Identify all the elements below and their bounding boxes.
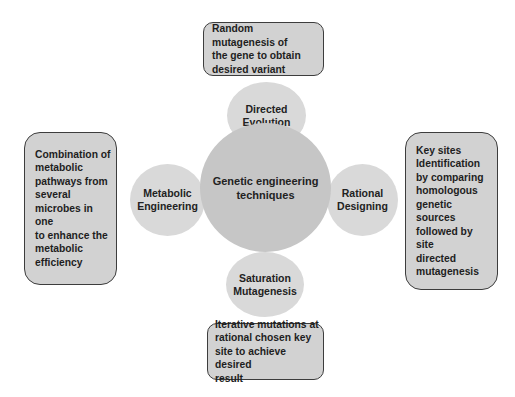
directed-evolution-description-box: Random mutagenesis of the gene to obtain… <box>203 22 324 76</box>
saturation-mutagenesis-description: Iterative mutations at rational chosen k… <box>215 318 319 386</box>
saturation-mutagenesis-label: Saturation Mutagenesis <box>233 272 297 298</box>
metabolic-engineering-description: Combination of metabolic pathways from s… <box>35 148 112 270</box>
saturation-mutagenesis-description-box: Iterative mutations at rational chosen k… <box>207 323 324 380</box>
directed-evolution-description: Random mutagenesis of the gene to obtain… <box>212 22 317 76</box>
saturation-mutagenesis-node: Saturation Mutagenesis <box>226 252 304 317</box>
rational-designing-node: Rational Designing <box>327 164 398 236</box>
genetic-engineering-diagram: Random mutagenesis of the gene to obtain… <box>0 0 515 397</box>
metabolic-engineering-description-box: Combination of metabolic pathways from s… <box>24 132 117 285</box>
rational-designing-description: Key sites Identification by comparing ho… <box>416 144 493 279</box>
rational-designing-label: Rational Designing <box>337 187 388 213</box>
metabolic-engineering-node: Metabolic Engineering <box>130 164 205 236</box>
rational-designing-description-box: Key sites Identification by comparing ho… <box>405 132 498 290</box>
genetic-engineering-center-node: Genetic engineering techniques <box>200 123 331 252</box>
metabolic-engineering-label: Metabolic Engineering <box>137 187 198 213</box>
center-label: Genetic engineering techniques <box>213 174 319 202</box>
